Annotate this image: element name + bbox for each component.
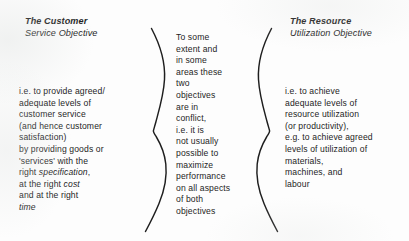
body-line: resource utilization — [285, 109, 409, 121]
resource-objective-body: i.e. to achieve adequate levels of resou… — [285, 86, 409, 190]
body-line: not usually — [176, 136, 238, 148]
body-line: i.e. to provide agreed/ — [19, 86, 151, 98]
body-line: areas these — [176, 67, 238, 79]
emphasis-specification: specification — [39, 167, 88, 177]
resource-heading-line2: Utilization Objective — [290, 28, 372, 40]
body-line: levels of utilization of — [285, 144, 409, 156]
body-line: by providing goods or — [19, 144, 151, 156]
body-line: extent and — [176, 44, 238, 56]
emphasis-time: time — [19, 202, 36, 212]
resource-heading-line1: The Resource — [290, 16, 372, 28]
body-line: and at the right — [19, 190, 151, 202]
body-line: are in — [176, 102, 238, 114]
body-line: two — [176, 78, 238, 90]
body-line: (or productivity), — [285, 121, 409, 133]
body-line: i.e. it is — [176, 125, 238, 137]
right-brace-icon — [257, 29, 278, 232]
body-line-emphasis: time — [19, 202, 151, 214]
body-line: i.e. to achieve — [285, 86, 409, 98]
body-line: in some — [176, 55, 238, 67]
customer-heading-line2: Service Objective — [25, 28, 97, 40]
body-line: adequate levels of — [19, 98, 151, 110]
body-line: conflict, — [176, 113, 238, 125]
body-line: materials, — [285, 156, 409, 168]
body-line: satisfaction) — [19, 132, 151, 144]
body-line: e.g. to achieve agreed — [285, 132, 409, 144]
body-line: To some — [176, 32, 238, 44]
body-line: of both — [176, 194, 238, 206]
body-line: objectives — [176, 90, 238, 102]
body-line: machines, and — [285, 167, 409, 179]
emphasis-cost: cost — [64, 179, 80, 189]
body-line-emphasis: at the right cost — [19, 179, 151, 191]
body-line: maximize — [176, 160, 238, 172]
body-line: labour — [285, 179, 409, 191]
body-line: customer service — [19, 109, 151, 121]
body-line: (and hence customer — [19, 121, 151, 133]
body-line: performance — [176, 171, 238, 183]
resource-objective-heading: The Resource Utilization Objective — [290, 16, 372, 39]
body-line: objectives — [176, 206, 238, 218]
customer-objective-heading: The Customer Service Objective — [25, 16, 97, 39]
body-line: on all aspects — [176, 183, 238, 195]
body-line: adequate levels of — [285, 98, 409, 110]
customer-objective-body: i.e. to provide agreed/ adequate levels … — [19, 86, 151, 214]
body-line: 'services' with the — [19, 156, 151, 168]
body-line: possible to — [176, 148, 238, 160]
body-line-emphasis: right specification, — [19, 167, 151, 179]
conflict-note-body: To some extent and in some areas these t… — [176, 32, 238, 218]
customer-heading-line1: The Customer — [25, 16, 97, 28]
